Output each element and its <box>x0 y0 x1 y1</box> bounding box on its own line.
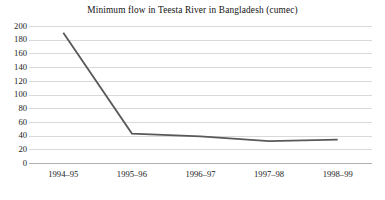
series-line-layer <box>0 0 385 200</box>
chart-figure: Minimum flow in Teesta River in Banglade… <box>0 0 385 200</box>
series-line-minimum-flow <box>63 33 337 141</box>
